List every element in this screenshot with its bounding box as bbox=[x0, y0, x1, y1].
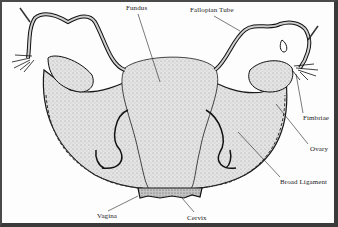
left-fallopian-tube bbox=[28, 14, 125, 70]
label-ovary: Ovary bbox=[310, 146, 328, 153]
label-cervix: Cervix bbox=[187, 215, 207, 222]
label-fundus: Fundus bbox=[126, 5, 147, 12]
right-tube-stick bbox=[308, 26, 318, 40]
leader-cervix bbox=[182, 198, 194, 212]
label-fallopian-tube: Fallopian Tube bbox=[190, 7, 234, 14]
label-vagina: Vagina bbox=[97, 213, 117, 220]
uterus-illustration bbox=[0, 0, 338, 227]
cervix-shape bbox=[138, 188, 202, 198]
left-tube-stick bbox=[20, 8, 30, 22]
right-ovary bbox=[249, 61, 293, 92]
label-broad-ligament: Broad Ligament bbox=[280, 179, 327, 186]
leader-vagina bbox=[108, 196, 138, 211]
right-fimbriae bbox=[292, 64, 318, 80]
left-fimbriae bbox=[12, 55, 34, 72]
label-fimbriae: Fimbriae bbox=[303, 115, 329, 122]
leader-fallopian-tube bbox=[214, 16, 240, 31]
